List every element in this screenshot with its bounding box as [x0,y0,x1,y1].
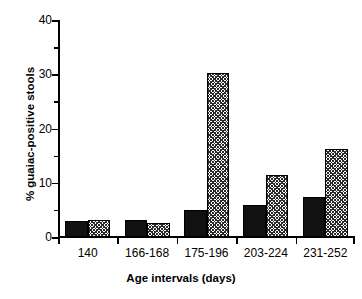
x-tick-mark [117,238,119,244]
y-tick-label: 0 [26,231,52,243]
y-axis-line [58,20,60,238]
x-tick-mark [296,238,298,244]
y-minor-tick-mark [54,210,58,211]
y-minor-tick-mark [54,47,58,48]
bar-hatched [266,175,289,237]
x-tick-label: 140 [58,247,117,260]
bar-solid [303,197,326,237]
y-tick-mark [52,129,58,131]
x-tick-label: 166-168 [117,247,176,260]
y-tick-label: 30 [26,68,52,80]
bar-chart-figure: % guaiac-positive stools 010203040 14016… [0,0,362,299]
x-tick-mark [177,238,179,244]
y-tick-label: 10 [26,177,52,189]
bar-hatched [207,73,230,237]
bar-hatched [325,149,348,237]
y-tick-mark [52,183,58,185]
bar-hatched [88,220,111,237]
x-tick-mark [58,238,60,244]
y-axis-tick-labels: 010203040 [26,0,52,299]
y-tick-label: 20 [26,123,52,135]
y-tick-label: 40 [26,14,52,26]
x-tick-mark [236,238,238,244]
y-minor-tick-mark [54,156,58,157]
y-tick-mark [52,20,58,22]
bar-solid [65,221,88,237]
x-tick-label: 175-196 [177,247,236,260]
x-tick-mark [353,238,355,244]
bar-solid [125,220,148,237]
x-axis-title: Age intervals (days) [0,272,362,284]
bar-hatched [147,223,170,237]
x-tick-label: 203-224 [236,247,295,260]
plot-area [58,20,355,237]
y-minor-tick-mark [54,101,58,102]
bar-solid [184,210,207,237]
y-tick-mark [52,74,58,76]
x-tick-label: 231-252 [296,247,355,260]
bar-solid [243,205,266,237]
